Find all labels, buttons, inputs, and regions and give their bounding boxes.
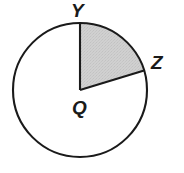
point-label-q: Q (72, 98, 87, 117)
circle-diagram-svg (0, 0, 184, 173)
point-label-z: Z (151, 53, 163, 72)
point-label-y: Y (71, 1, 84, 20)
geometry-figure: Y Z Q (0, 0, 184, 173)
